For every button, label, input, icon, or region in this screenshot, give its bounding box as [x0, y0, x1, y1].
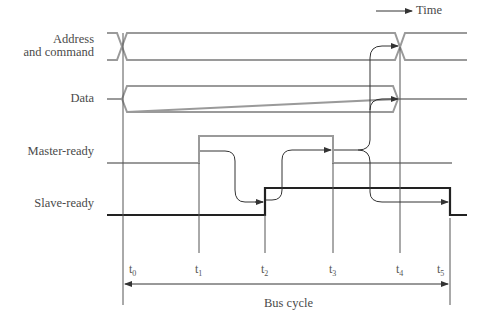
time-marker-t5: t5: [437, 262, 444, 278]
signal-label-address-line2: and command: [0, 46, 94, 59]
time-marker-t0: t0: [129, 262, 136, 278]
signal-label-master-ready: Master-ready: [0, 145, 94, 158]
handshake-arrows: [200, 46, 448, 202]
time-marker-t3: t3: [329, 262, 336, 278]
data-waveform: [107, 86, 467, 112]
bus-cycle-label: Bus cycle: [264, 296, 313, 311]
signal-label-slave-ready: Slave-ready: [0, 197, 94, 210]
time-marker-t1: t1: [195, 262, 202, 278]
signal-label-address: Address and command: [0, 33, 94, 59]
time-label: Time: [416, 3, 442, 18]
time-marker-t4: t4: [396, 262, 403, 278]
signal-label-data: Data: [0, 92, 94, 105]
address-command-waveform: [107, 33, 467, 60]
time-marker-t2: t2: [261, 262, 268, 278]
